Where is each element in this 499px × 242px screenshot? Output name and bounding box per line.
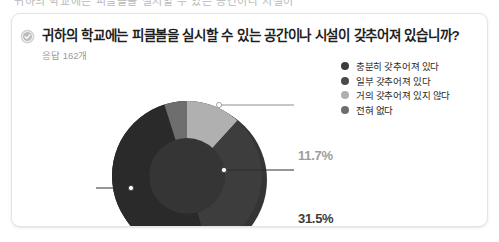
legend-item-label: 거의 갖추어져 있지 않다 bbox=[356, 88, 450, 102]
legend-item-label: 충분히 갖추어져 있다 bbox=[356, 59, 439, 73]
verified-check-icon bbox=[20, 29, 35, 44]
cut-off-text-strip: 귀하의 학교에는 피클볼을 실시할 수 있는 공간이나 시설이 bbox=[0, 0, 499, 12]
cut-off-text: 귀하의 학교에는 피클볼을 실시할 수 있는 공간이나 시설이 bbox=[14, 0, 294, 8]
legend-item-label: 일부 갖추어져 있다 bbox=[356, 74, 430, 88]
donut-chart-svg bbox=[12, 58, 362, 226]
slice-percentage-label: 50.6% bbox=[51, 226, 86, 227]
question-header: 귀하의 학교에는 피클볼을 실시할 수 있는 공간이나 시설이 갖추어져 있습니… bbox=[20, 28, 460, 45]
slice-percentage-label: 11.7% bbox=[298, 148, 333, 163]
page-title: 귀하의 학교에는 피클볼을 실시할 수 있는 공간이나 시설이 갖추어져 있습니… bbox=[42, 28, 460, 45]
donut-chart[interactable]: 11.7% 31.5% 50.6% bbox=[12, 58, 362, 226]
question-summary-card: 귀하의 학교에는 피클볼을 실시할 수 있는 공간이나 시설이 갖추어져 있습니… bbox=[11, 13, 488, 227]
slice-percentage-label: 31.5% bbox=[298, 211, 333, 226]
